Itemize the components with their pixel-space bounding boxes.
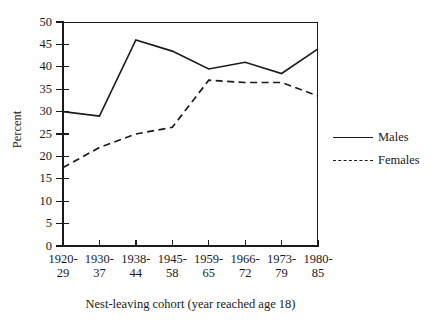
x-axis-tick bbox=[99, 240, 100, 247]
y-axis-tick bbox=[56, 44, 63, 45]
legend-item-males: Males bbox=[333, 129, 437, 152]
y-axis-tick-label: 45 bbox=[12, 38, 52, 51]
legend-item-females: Females bbox=[333, 152, 437, 175]
y-axis-tick-label: 40 bbox=[12, 60, 52, 73]
y-axis-tick bbox=[56, 178, 63, 179]
y-axis-tick-inner bbox=[63, 66, 69, 67]
y-axis-tick bbox=[56, 66, 63, 67]
y-axis-tick-inner bbox=[63, 156, 69, 157]
legend-swatch-dashed-icon bbox=[333, 160, 373, 161]
x-axis-tick bbox=[317, 240, 318, 247]
legend-label-females: Females bbox=[378, 152, 420, 169]
x-axis-title: Nest-leaving cohort (year reached age 18… bbox=[63, 297, 318, 312]
y-axis-tick bbox=[56, 111, 63, 112]
y-axis-tick bbox=[56, 156, 63, 157]
x-axis-tick bbox=[62, 240, 63, 247]
y-axis-tick-inner bbox=[63, 111, 69, 112]
y-axis-tick bbox=[56, 223, 63, 224]
y-axis-tick-inner bbox=[63, 201, 69, 202]
plot-area-frame bbox=[63, 22, 318, 246]
legend-swatch-solid-icon bbox=[333, 137, 373, 138]
y-axis-tick-inner bbox=[63, 178, 69, 179]
y-axis-tick-label: 35 bbox=[12, 83, 52, 96]
y-axis-tick-inner bbox=[63, 44, 69, 45]
y-axis-tick-label: 5 bbox=[12, 217, 52, 230]
y-axis-tick-label: 15 bbox=[12, 172, 52, 185]
x-axis-tick bbox=[172, 240, 173, 247]
x-axis-tick bbox=[208, 240, 209, 247]
x-axis-tick bbox=[135, 240, 136, 247]
y-axis-tick-label: 0 bbox=[12, 240, 52, 253]
y-axis-tick-label: 10 bbox=[12, 195, 52, 208]
y-axis-tick-inner bbox=[63, 223, 69, 224]
y-axis-tick bbox=[56, 133, 63, 134]
y-axis-tick-label: 50 bbox=[12, 16, 52, 29]
y-axis-tick bbox=[56, 201, 63, 202]
y-axis-tick bbox=[56, 21, 63, 22]
y-axis-title: Percent bbox=[10, 100, 25, 160]
chart-legend: Males Females bbox=[333, 129, 437, 175]
y-axis-tick-inner bbox=[63, 89, 69, 90]
legend-label-males: Males bbox=[378, 129, 409, 146]
y-axis-tick bbox=[56, 89, 63, 90]
chart-figure: 05101520253035404550 1920-291930-371938-… bbox=[0, 0, 437, 327]
x-axis-tick bbox=[281, 240, 282, 247]
x-axis-tick-label: 1980-85 bbox=[291, 252, 345, 280]
y-axis-tick-inner bbox=[63, 133, 69, 134]
x-axis-tick bbox=[245, 240, 246, 247]
